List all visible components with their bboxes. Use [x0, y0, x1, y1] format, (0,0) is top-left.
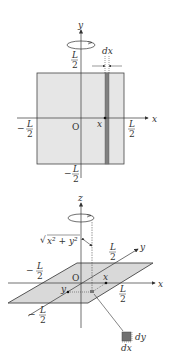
point-x-label: x	[103, 272, 108, 282]
bottom-minus: −	[64, 168, 72, 178]
top-half-L-den: 2	[72, 60, 78, 70]
y-pos-half-L-num: L	[109, 242, 116, 252]
left-half-L-num: L	[26, 119, 33, 129]
y-neg-minus: −	[28, 309, 36, 319]
y-pos-half-L-den: 2	[110, 252, 116, 262]
right-half-L-num: L	[128, 119, 135, 129]
origin-label: O	[72, 122, 79, 132]
right-half-L-den: 2	[129, 129, 135, 139]
origin-3d-label: O	[72, 273, 79, 283]
x-axis-3d-label: x	[158, 279, 163, 289]
y-axis-3d-label: y	[139, 242, 146, 252]
x-neg-half-L-num: L	[36, 261, 43, 271]
bottom-half-L-num: L	[72, 164, 79, 174]
dx-label: dx	[102, 46, 113, 56]
dy-label: dy	[135, 332, 147, 342]
point-y-label: y	[60, 284, 67, 294]
bottom-figure: z y x O √ x² + y² L 2 − L 2 L 2 − L 2 x …	[8, 193, 163, 352]
left-half-L-den: 2	[27, 129, 33, 139]
y-neg-half-L-den: 2	[40, 315, 46, 325]
x-neg-minus: −	[26, 265, 34, 275]
distance-arrow	[84, 240, 92, 246]
bottom-half-L-den: 2	[73, 174, 79, 184]
dx-element-label: dx	[121, 343, 132, 352]
square-plate	[37, 73, 124, 164]
top-figure: y x O x dx L 2 − L 2 L 2 − L 2	[17, 20, 157, 184]
y-neg-half-L-num: L	[39, 305, 46, 315]
y-axis-label: y	[77, 20, 84, 30]
x-pos-half-L-den: 2	[120, 294, 126, 304]
x-pos-half-L-num: L	[119, 284, 126, 294]
sqrt-sign: √	[40, 235, 46, 245]
strip-position-label: x	[97, 119, 102, 129]
area-element	[122, 332, 131, 341]
x-axis-label: x	[152, 114, 157, 124]
left-minus: −	[17, 123, 25, 133]
top-half-L-num: L	[71, 50, 78, 60]
x-neg-half-L-den: 2	[37, 271, 43, 281]
moment-of-inertia-diagram: y x O x dx L 2 − L 2 L 2 − L 2	[0, 0, 172, 352]
distance-label: x² + y²	[47, 236, 78, 246]
z-axis-label: z	[77, 193, 83, 203]
